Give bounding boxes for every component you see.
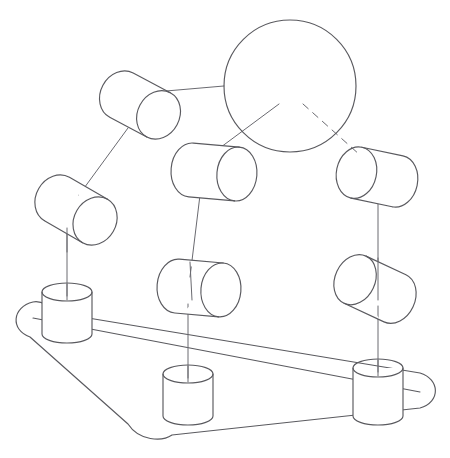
link-upper-left-to-lower-left: [79, 128, 128, 195]
joint-cylinder-lower-right: [326, 248, 424, 331]
figure-root: [0, 0, 450, 458]
joint-cylinder-lower-middle: [155, 257, 243, 318]
joint-cylinder-upper-left: [91, 63, 189, 147]
joint-cylinder-lower-left: [26, 167, 125, 253]
moving-platform-disc: [224, 20, 356, 152]
moving-platform-circle: [224, 20, 356, 152]
line-drawing-canvas: [0, 0, 450, 458]
leg-links: [67, 86, 378, 378]
joint-cylinder-upper-middle: [169, 141, 259, 202]
joint-cylinder-upper-right: [331, 143, 422, 211]
joint-cylinder-lower-right-face: [326, 248, 384, 312]
link-platform-to-upper-left: [166, 86, 224, 91]
